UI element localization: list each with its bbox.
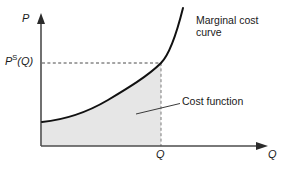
price-label-suffix: (Q): [17, 55, 33, 67]
y-axis-tick-label-supply-price: PS(Q): [5, 55, 33, 68]
y-axis-arrowhead-icon: [37, 13, 45, 24]
marginal-cost-curve-label: Marginal costcurve: [196, 14, 258, 39]
marginal-cost-label-line2: curve: [196, 26, 222, 38]
x-axis-arrowhead-icon: [256, 142, 268, 150]
cost-function-label: Cost function: [182, 95, 243, 107]
marginal-cost-label-line1: Marginal cost: [196, 14, 258, 26]
x-axis-label: Q: [268, 148, 277, 161]
economics-cost-function-figure: P Q Q PS(Q) Marginal costcurve Cost func…: [0, 0, 282, 173]
x-axis-tick-label-q: Q: [156, 148, 165, 161]
y-axis-label: P: [22, 12, 29, 25]
